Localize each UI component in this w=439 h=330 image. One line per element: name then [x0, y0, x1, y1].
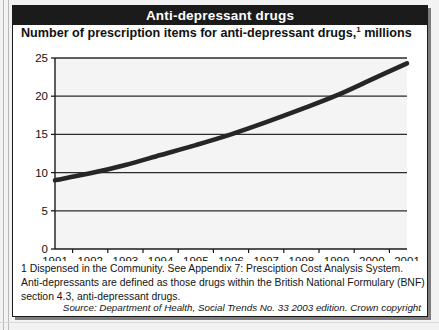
x-axis-tick-label: 1997 — [253, 255, 279, 261]
y-axis-tick-label: 20 — [35, 90, 48, 102]
x-axis-tick-label: 1994 — [148, 255, 174, 261]
x-axis-tick-label: 2001 — [394, 255, 420, 261]
page-bottom-rule — [0, 322, 439, 323]
y-axis-tick-label: 25 — [35, 52, 48, 64]
x-axis-tick-label: 1996 — [218, 255, 244, 261]
figure-subtitle: Number of prescription items for anti-de… — [21, 27, 425, 41]
y-axis-tick-label: 10 — [35, 167, 48, 179]
page-gutter-rule-inner — [8, 0, 9, 330]
figure-title: Anti-depressant drugs — [146, 9, 294, 23]
y-axis-tick-label: 0 — [42, 243, 48, 255]
x-axis-tick-label: 1998 — [289, 255, 315, 261]
subtitle-text: Number of prescription items for anti-de… — [21, 26, 356, 40]
y-axis-tick-label: 5 — [42, 205, 48, 217]
source-attribution: Source: Department of Health, Social Tre… — [21, 302, 421, 313]
figure-panel: Anti-depressant drugs Number of prescrip… — [12, 5, 428, 317]
page-canvas: Anti-depressant drugs Number of prescrip… — [0, 0, 439, 330]
footnotes: 1 Dispensed in the Community. See Append… — [21, 262, 421, 303]
figure-title-bar: Anti-depressant drugs — [13, 6, 427, 25]
x-axis-tick-label: 1995 — [183, 255, 209, 261]
x-axis-tick-label: 2000 — [359, 255, 385, 261]
x-axis-tick-label: 1991 — [42, 255, 68, 261]
subtitle-unit: millions — [361, 26, 412, 40]
x-axis-tick-label: 1992 — [77, 255, 103, 261]
footnote-line-2: Anti-depressants are defined as those dr… — [21, 276, 421, 290]
x-axis-tick-label: 1993 — [113, 255, 139, 261]
page-gutter-rule-outer — [3, 0, 4, 330]
chart-canvas: 0510152025 19911992199319941995199619971… — [13, 46, 427, 261]
footnote-line-1: 1 Dispensed in the Community. See Append… — [21, 262, 421, 276]
y-axis-tick-labels: 0510152025 — [35, 52, 48, 255]
y-axis-tick-label: 15 — [35, 128, 48, 140]
x-axis-tick-label: 1999 — [324, 255, 350, 261]
x-axis-tick-labels: 1991199219931994199519961997199819992000… — [42, 255, 420, 261]
line-chart: 0510152025 19911992199319941995199619971… — [13, 46, 427, 261]
